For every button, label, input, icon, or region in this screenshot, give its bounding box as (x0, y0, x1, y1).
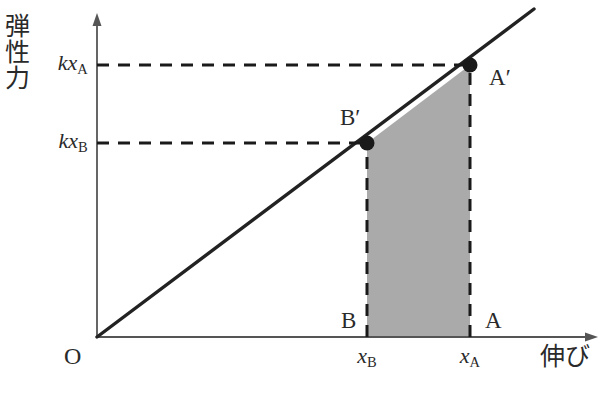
point-label-a-prime-mark: ′ (506, 65, 511, 90)
point-label-b-prime: B′ (340, 106, 360, 129)
y-axis-title-char-2: 性 (2, 40, 32, 66)
origin-label: O (64, 344, 81, 368)
point-label-b: B (341, 309, 356, 332)
x-tick-xa-sub: A (470, 354, 481, 370)
point-label-a-prime-letter: A (489, 65, 506, 90)
data-point-b-prime (360, 136, 375, 151)
x-tick-label-xa: xA (446, 345, 494, 370)
y-tick-kxb-x: x (68, 128, 78, 153)
y-tick-label-kxa: kxA (30, 52, 88, 77)
point-label-a: A (485, 309, 502, 332)
y-tick-kxb-sub: B (78, 139, 88, 155)
elastic-force-extension-graph (0, 0, 612, 393)
shaded-work-region (367, 65, 470, 337)
x-tick-xa-x: x (460, 343, 470, 368)
y-tick-kxa-k: k (58, 50, 68, 75)
y-axis-title-char-3: 力 (2, 66, 32, 92)
y-axis-title-char-1: 弾 (2, 14, 32, 40)
y-axis-title: 弾 性 力 (2, 14, 32, 92)
y-axis-arrowhead (93, 13, 102, 26)
y-tick-label-kxb: kxB (30, 130, 88, 155)
point-label-a-prime: A′ (489, 66, 511, 89)
y-tick-kxa-sub: A (77, 61, 88, 77)
x-tick-xb-x: x (357, 343, 367, 368)
y-tick-kxb-k: k (59, 128, 69, 153)
point-label-b-prime-letter: B (340, 105, 355, 130)
data-point-a-prime (463, 58, 478, 73)
point-label-b-prime-mark: ′ (355, 105, 360, 130)
x-axis-title: 伸び (540, 344, 590, 369)
x-tick-label-xb: xB (343, 345, 391, 370)
y-tick-kxa-x: x (68, 50, 78, 75)
x-tick-xb-sub: B (367, 354, 377, 370)
x-axis-arrowhead (585, 333, 598, 342)
